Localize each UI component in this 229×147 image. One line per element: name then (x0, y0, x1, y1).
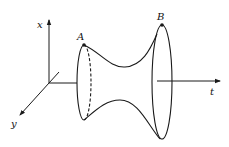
lower-profile-curve (84, 100, 160, 139)
t-axis-label: t (210, 86, 215, 97)
point-a-label: A (76, 31, 84, 42)
y-axis-stub (49, 72, 59, 83)
x-axis-label: x (37, 19, 43, 30)
upper-profile-curve (84, 34, 157, 67)
point-a-marker (82, 43, 86, 47)
coordinate-axes (20, 20, 220, 115)
point-b-label: B (156, 11, 164, 22)
ellipse-a-back-dashed (84, 45, 91, 120)
point-b-marker (160, 23, 164, 27)
surface-of-revolution-diagram: x y t A B (0, 0, 229, 147)
y-axis (20, 83, 49, 115)
y-axis-label: y (10, 118, 17, 129)
ellipse-b (152, 25, 172, 139)
surface (77, 25, 172, 139)
ellipse-a-front (77, 45, 84, 120)
